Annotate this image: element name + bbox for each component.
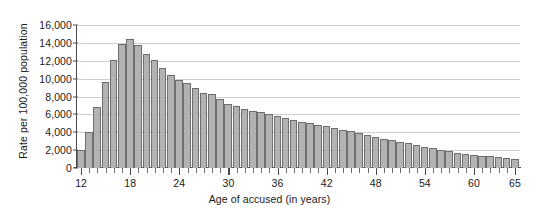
x-axis-tick-mark [392,168,393,173]
bar [388,140,396,168]
bar [314,125,322,168]
x-axis-tick-mark [417,168,418,173]
x-axis-title: Age of accused (in years) [0,193,539,205]
bar [470,155,478,168]
x-axis-tick-mark [212,168,213,173]
x-axis-tick-mark [490,168,491,173]
x-axis-tick-mark [318,168,319,173]
bar [233,106,241,168]
x-axis-tick-mark [97,168,98,173]
bar [372,137,380,168]
x-axis-tick-mark [114,168,115,173]
bar [495,157,503,168]
bar [445,151,453,168]
y-axis-tick-label: 0 [66,162,72,174]
x-axis-tick-mark [482,168,483,173]
bar [126,39,134,168]
x-axis-tick-mark [278,168,279,175]
x-axis-tick-mark [384,168,385,173]
x-axis-tick-mark [204,168,205,173]
bar [478,156,486,169]
x-axis-tick-mark [359,168,360,173]
y-axis-tick-labels: 16,00014,00012,00010,0008,0006,0004,0002… [30,0,72,224]
x-axis-tick-mark [130,168,131,175]
bar [200,93,208,168]
y-axis-tick-label: 10,000 [39,73,72,85]
x-axis-tick-mark [441,168,442,173]
bar [249,111,257,168]
bar [93,107,101,168]
bar [216,99,224,168]
bar [265,114,273,168]
x-axis-tick-label: 65 [509,177,521,189]
y-axis-tick-label: 14,000 [39,37,72,49]
x-axis-tick-labels: 12182430364248546065 [77,177,519,193]
bar [380,139,388,168]
bar [274,116,282,168]
x-axis-tick-mark [245,168,246,173]
bar [175,80,183,168]
x-axis-tick-mark [449,168,450,173]
bar [257,112,265,168]
x-axis-tick-mark [351,168,352,173]
bar [183,83,191,168]
bar [454,153,462,168]
x-axis-tick-mark [261,168,262,173]
x-axis-tick-mark [228,168,229,175]
x-axis-tick-mark [122,168,123,173]
bar [413,145,421,168]
bar [77,150,85,168]
x-axis-tick-label: 60 [468,177,480,189]
x-axis-tick-mark [302,168,303,173]
x-axis-tick-label: 42 [321,177,333,189]
x-axis-tick-mark [507,168,508,173]
bar [503,158,511,168]
x-axis-tick-mark [106,168,107,173]
x-axis-tick-label: 54 [419,177,431,189]
bar [421,147,429,168]
x-axis-tick-mark [343,168,344,173]
figure-footer-band [0,212,539,224]
x-axis-tick-label: 12 [75,177,87,189]
bar [159,68,167,168]
bar [151,60,159,168]
bar [143,54,151,168]
bar [355,133,363,168]
x-axis-tick-mark [269,168,270,173]
bar-chart-figure: Rate per 100,000 population 16,00014,000… [0,0,539,224]
x-axis-tick-mark [163,168,164,173]
bar [102,82,110,168]
bar [323,126,331,168]
x-axis-tick-mark [253,168,254,173]
x-axis-tick-mark [376,168,377,175]
bar [339,130,347,168]
y-axis-tick-label: 4,000 [45,126,72,138]
x-axis-tick-mark [237,168,238,173]
x-axis-tick-label: 48 [370,177,382,189]
x-axis-tick-label: 24 [173,177,185,189]
x-axis-tick-mark [499,168,500,173]
y-axis-tick-label: 16,000 [39,19,72,31]
x-axis-tick-mark [188,168,189,173]
bar [282,118,290,168]
bar [224,104,232,168]
bar [437,150,445,168]
x-axis-tick-mark [368,168,369,173]
x-axis-tick-mark [171,168,172,173]
bar [347,131,355,168]
x-axis-tick-mark [335,168,336,173]
x-axis-tick-mark [327,168,328,175]
bar [290,120,298,168]
x-axis-tick-mark [155,168,156,173]
bar-series [77,25,519,168]
x-axis-tick-mark [425,168,426,175]
bar [110,60,118,168]
y-axis-tick-label: 12,000 [39,55,72,67]
bar [405,143,413,168]
bar [429,148,437,168]
x-axis-tick-mark [409,168,410,173]
bar [85,132,93,168]
x-axis-tick-mark [179,168,180,175]
x-axis-tick-mark [81,168,82,175]
bar [364,135,372,168]
